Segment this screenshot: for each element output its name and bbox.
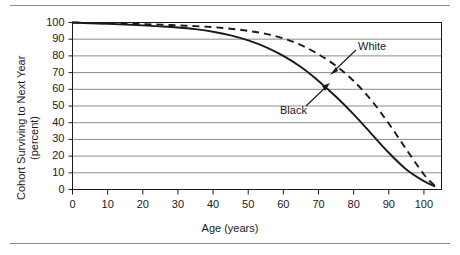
x-axis-tick-label: 90 xyxy=(374,198,404,210)
chart-plot xyxy=(0,0,460,255)
y-axis-tick-label: 40 xyxy=(35,116,65,128)
y-axis-tick-label: 80 xyxy=(35,49,65,61)
series-label-black: Black xyxy=(280,104,307,116)
x-axis-tick-label: 70 xyxy=(304,198,334,210)
gridlines-group xyxy=(73,39,442,173)
y-axis-title-line1: Cohort Surviving to Next Year xyxy=(15,56,27,200)
x-axis-tick-label: 100 xyxy=(409,198,439,210)
x-axis-tick-label: 30 xyxy=(163,198,193,210)
figure-container: Cohort Surviving to Next Year (percent) … xyxy=(0,0,460,255)
x-axis-tick-label: 50 xyxy=(233,198,263,210)
x-axis-tick-label: 60 xyxy=(268,198,298,210)
series-label-white: White xyxy=(358,40,386,52)
y-axis-tick-label: 0 xyxy=(35,183,65,195)
y-axis-tick-label: 10 xyxy=(35,166,65,178)
y-axis-tick-label: 50 xyxy=(35,99,65,111)
x-axis-tick-label: 0 xyxy=(58,198,88,210)
x-axis-tick-label: 10 xyxy=(93,198,123,210)
y-axis-tick-label: 60 xyxy=(35,82,65,94)
y-axis-tick-label: 20 xyxy=(35,149,65,161)
x-axis-tick-label: 40 xyxy=(198,198,228,210)
y-axis-tick-label: 100 xyxy=(35,16,65,28)
y-axis-tick-label: 90 xyxy=(35,32,65,44)
x-axis-tick-label: 20 xyxy=(128,198,158,210)
x-axis-title: Age (years) xyxy=(0,222,460,234)
y-axis-tick-label: 30 xyxy=(35,132,65,144)
x-axis-tick-label: 80 xyxy=(339,198,369,210)
y-axis-tick-label: 70 xyxy=(35,66,65,78)
